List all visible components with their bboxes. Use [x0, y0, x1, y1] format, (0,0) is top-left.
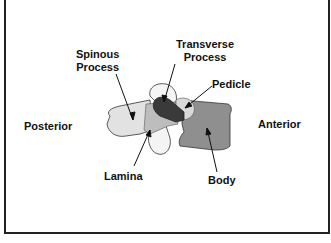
spinous-process-label-line2: Process [76, 61, 119, 74]
transverse-process-label-line2: Process [176, 51, 234, 64]
lamina-label: Lamina [104, 170, 143, 183]
spinous-process-label: Spinous Process [76, 48, 119, 74]
transverse-process-label-line1: Transverse [176, 38, 234, 51]
posterior-label: Posterior [24, 120, 72, 133]
body-label: Body [208, 174, 236, 187]
transverse-process-label: Transverse Process [176, 38, 234, 64]
spinous-process-label-line1: Spinous [76, 48, 119, 61]
anterior-label: Anterior [258, 118, 301, 131]
pedicle-label: Pedicle [212, 78, 251, 91]
